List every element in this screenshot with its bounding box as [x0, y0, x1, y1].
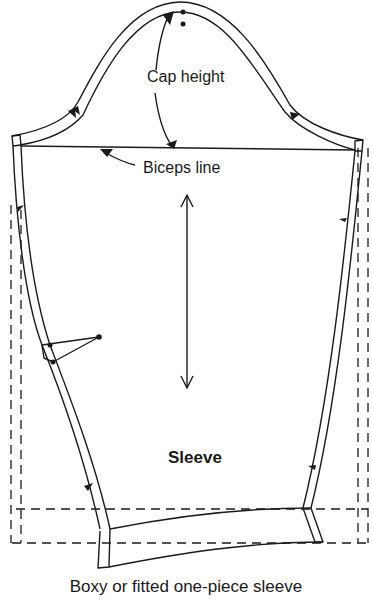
left-seam-outer [13, 146, 100, 529]
piece-label: Sleeve [168, 448, 222, 467]
shoulder-dot-2 [181, 22, 186, 27]
sleeve-pattern-diagram: Cap height Biceps line Sleeve Boxy or fi… [0, 0, 372, 599]
grainline-arrow [181, 195, 193, 388]
hem-right-edge [303, 508, 323, 542]
dart-dot-2 [51, 360, 56, 365]
cap-arrowhead-top [163, 11, 174, 25]
corner-left [12, 135, 21, 146]
corner-right [355, 140, 363, 151]
right-seam-inner [311, 151, 362, 508]
dart-point-dot [96, 334, 102, 340]
dart-dot-1 [48, 343, 53, 348]
shoulder-dot-1 [181, 10, 186, 15]
notch-right-upper [339, 218, 347, 222]
hem-line [109, 542, 323, 567]
right-seam-outer [303, 151, 355, 508]
biceps-line-label: Biceps line [143, 159, 220, 176]
hem-left-edge [98, 529, 110, 568]
caption: Boxy or fitted one-piece sleeve [70, 577, 302, 596]
cap-height-label: Cap height [147, 68, 225, 85]
cap-height-arrow-upper [156, 17, 168, 70]
elbow-dart [42, 337, 99, 362]
biceps-line [21, 146, 355, 150]
wrist-line [110, 508, 311, 529]
dashed-boxy-outline [11, 148, 368, 543]
cap-height-arrow-lower [155, 93, 172, 146]
